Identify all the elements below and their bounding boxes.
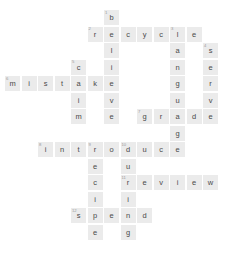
crossword-letter: e [170, 142, 185, 157]
crossword-letter: v [154, 175, 169, 190]
crossword-cell[interactable]: a [170, 43, 185, 58]
crossword-cell[interactable]: 6m [5, 76, 20, 91]
crossword-cell[interactable]: c [88, 175, 103, 190]
crossword-cell[interactable]: e [88, 225, 103, 240]
crossword-cell[interactable]: p [88, 208, 103, 223]
crossword-letter: b [104, 10, 119, 25]
crossword-cell[interactable]: e [187, 175, 202, 190]
crossword-letter: u [121, 159, 136, 174]
crossword-cell[interactable]: v [203, 93, 218, 108]
crossword-cell[interactable]: w [203, 175, 218, 190]
crossword-letter: r [154, 109, 169, 124]
crossword-cell[interactable]: e [187, 27, 202, 42]
crossword-cell[interactable]: n [121, 208, 136, 223]
crossword-letter: a [170, 109, 185, 124]
crossword-letter: y [137, 27, 152, 42]
crossword-cell[interactable]: c [154, 142, 169, 157]
crossword-cell[interactable]: t [55, 76, 70, 91]
crossword-cell[interactable]: 3l [170, 27, 185, 42]
crossword-cell[interactable]: 4s [203, 43, 218, 58]
crossword-cell[interactable]: y [137, 27, 152, 42]
crossword-cell[interactable]: i [71, 93, 86, 108]
crossword-cell[interactable]: v [154, 175, 169, 190]
crossword-cell[interactable]: o [104, 142, 119, 157]
crossword-cell[interactable]: u [137, 142, 152, 157]
crossword-cell[interactable]: 5c [71, 60, 86, 75]
crossword-letter: e [203, 109, 218, 124]
crossword-cell[interactable]: u [170, 93, 185, 108]
crossword-cell[interactable]: 8i [38, 142, 53, 157]
crossword-cell[interactable]: 1b [104, 10, 119, 25]
crossword-cell[interactable]: s [38, 76, 53, 91]
crossword-letter: i [88, 192, 103, 207]
crossword-cell[interactable]: 11r [121, 175, 136, 190]
crossword-letter: l [170, 27, 185, 42]
crossword-cell[interactable]: g [170, 76, 185, 91]
crossword-cell[interactable]: e [104, 208, 119, 223]
crossword-cell[interactable]: n [170, 60, 185, 75]
crossword-cell[interactable]: i [170, 175, 185, 190]
crossword-letter: c [71, 60, 86, 75]
crossword-letter: i [22, 76, 37, 91]
crossword-cell[interactable]: c [154, 27, 169, 42]
crossword-cell[interactable]: a [71, 76, 86, 91]
crossword-cell[interactable]: e [88, 159, 103, 174]
crossword-cell[interactable]: m [71, 109, 86, 124]
crossword-cell[interactable]: k [88, 76, 103, 91]
crossword-letter: e [203, 60, 218, 75]
crossword-cell[interactable]: 7g [137, 109, 152, 124]
crossword-letter: r [88, 27, 103, 42]
crossword-cell[interactable]: e [104, 76, 119, 91]
crossword-cell[interactable]: 10d [121, 142, 136, 157]
crossword-cell[interactable]: d [137, 208, 152, 223]
crossword-cell[interactable]: d [187, 109, 202, 124]
crossword-letter: s [71, 208, 86, 223]
crossword-letter: s [203, 43, 218, 58]
crossword-letter: k [88, 76, 103, 91]
crossword-letter: e [104, 76, 119, 91]
crossword-cell[interactable]: i [121, 192, 136, 207]
crossword-cell[interactable]: r [203, 76, 218, 91]
crossword-cell[interactable]: c [121, 27, 136, 42]
crossword-letter: i [170, 175, 185, 190]
crossword-cell[interactable]: e [203, 109, 218, 124]
crossword-letter: g [121, 225, 136, 240]
crossword-cell[interactable]: t [71, 142, 86, 157]
crossword-cell[interactable]: 9r [88, 142, 103, 157]
crossword-cell[interactable]: v [104, 93, 119, 108]
crossword-letter: u [170, 93, 185, 108]
crossword-letter: g [137, 109, 152, 124]
crossword-cell[interactable]: n [55, 142, 70, 157]
crossword-letter: e [104, 27, 119, 42]
crossword-cell[interactable]: i [22, 76, 37, 91]
crossword-letter: l [104, 43, 119, 58]
crossword-letter: c [121, 27, 136, 42]
crossword-cell[interactable]: l [104, 43, 119, 58]
crossword-cell[interactable]: e [137, 175, 152, 190]
crossword-letter: c [154, 27, 169, 42]
crossword-letter: i [121, 192, 136, 207]
crossword-cell[interactable]: g [170, 126, 185, 141]
crossword-cell[interactable]: 12s [71, 208, 86, 223]
crossword-cell[interactable]: i [104, 60, 119, 75]
crossword-letter: u [137, 142, 152, 157]
crossword-cell[interactable]: i [88, 192, 103, 207]
crossword-letter: c [154, 142, 169, 157]
crossword-letter: m [71, 109, 86, 124]
crossword-letter: i [38, 142, 53, 157]
crossword-cell[interactable]: e [104, 27, 119, 42]
crossword-cell[interactable]: g [121, 225, 136, 240]
crossword-letter: v [203, 93, 218, 108]
crossword-cell[interactable]: 2r [88, 27, 103, 42]
crossword-cell[interactable]: u [121, 159, 136, 174]
crossword-letter: d [187, 109, 202, 124]
crossword-letter: g [170, 76, 185, 91]
crossword-letter: e [187, 27, 202, 42]
crossword-cell[interactable]: e [203, 60, 218, 75]
crossword-cell[interactable]: e [170, 142, 185, 157]
crossword-letter: n [55, 142, 70, 157]
crossword-letter: v [104, 93, 119, 108]
crossword-cell[interactable]: e [104, 109, 119, 124]
crossword-cell[interactable]: a [170, 109, 185, 124]
crossword-cell[interactable]: r [154, 109, 169, 124]
